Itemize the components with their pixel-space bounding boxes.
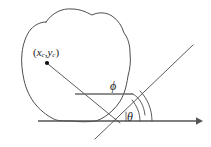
theta-outer-angle-arc — [140, 91, 152, 121]
horizontal-axis-arrowhead — [196, 117, 203, 125]
centroid-dot-marker — [45, 61, 49, 65]
close-paren: ) — [55, 46, 59, 58]
phi-angle-label: ϕ — [110, 80, 116, 92]
theta-angle-label: θ — [127, 111, 133, 123]
diagram-vector-graphics — [0, 0, 211, 147]
diagram-canvas: (xc,yc) ϕ θ — [0, 0, 211, 147]
theta-angle-arc — [132, 100, 140, 121]
irregular-closed-region-outline — [22, 9, 131, 122]
centroid-coordinate-label: (xc,yc) — [33, 47, 59, 59]
